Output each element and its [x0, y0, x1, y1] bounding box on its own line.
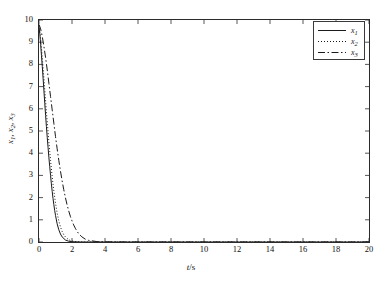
y-tick-label: 1 [17, 215, 33, 224]
y-tick-label: 2 [17, 193, 33, 202]
x-tick-label: 6 [126, 245, 150, 254]
x-tick-label: 16 [291, 245, 315, 254]
legend-line-sample [317, 27, 347, 34]
legend-label: x3 [347, 48, 358, 58]
x-tick-label: 4 [93, 245, 117, 254]
x-tick-label: 8 [159, 245, 183, 254]
y-tick-label: 5 [17, 126, 33, 135]
legend-label: x2 [347, 37, 358, 47]
y-axis-label: x1, x2, x3 [5, 99, 16, 159]
y-tick-label: 8 [17, 59, 33, 68]
figure: 02468101214161820 012345678910 t/s x1, x… [0, 0, 382, 287]
x-tick-label: 18 [324, 245, 348, 254]
x-tick-label: 14 [258, 245, 282, 254]
legend-item-x1: x1 [317, 25, 361, 36]
legend-line-sample [317, 38, 347, 45]
legend: x1x2x3 [313, 21, 365, 60]
y-tick-label: 10 [17, 15, 33, 24]
x-tick-label: 10 [192, 245, 216, 254]
x-axis-label: t/s [0, 262, 382, 272]
y-tick-label: 6 [17, 104, 33, 113]
legend-line-sample [317, 49, 347, 56]
x-tick-label: 20 [357, 245, 381, 254]
legend-label: x1 [347, 26, 358, 36]
legend-item-x2: x2 [317, 36, 361, 47]
y-tick-label: 3 [17, 170, 33, 179]
y-tick-label: 0 [17, 237, 33, 246]
y-tick-label: 9 [17, 37, 33, 46]
y-tick-label: 4 [17, 148, 33, 157]
x-tick-label: 12 [225, 245, 249, 254]
y-tick-label: 7 [17, 82, 33, 91]
x-tick-label: 0 [27, 245, 51, 254]
legend-item-x3: x3 [317, 47, 361, 58]
x-axis-label-unit: /s [189, 262, 195, 272]
x-tick-label: 2 [60, 245, 84, 254]
